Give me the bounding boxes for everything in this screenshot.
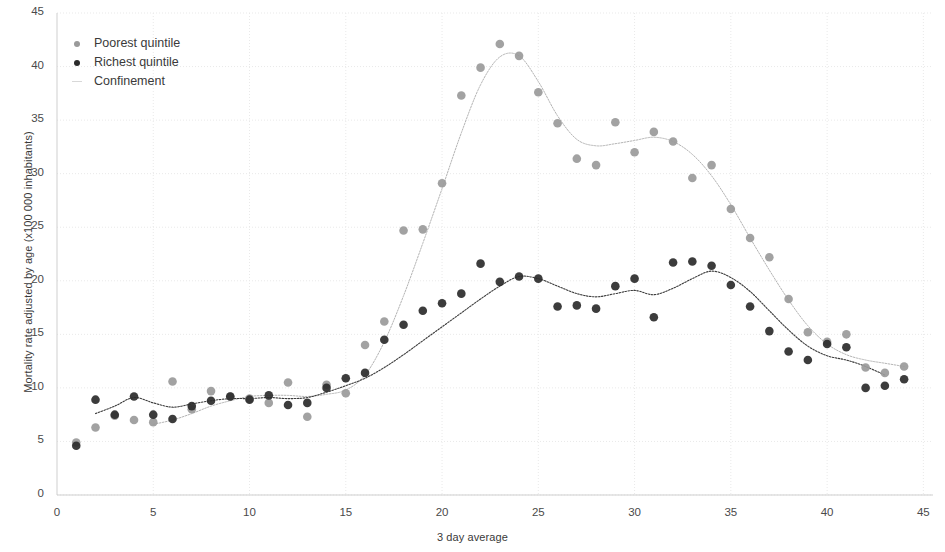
- x-tick-0: 0: [37, 506, 77, 518]
- x-tick-15: 15: [326, 506, 366, 518]
- x-tick-5: 5: [133, 506, 173, 518]
- x-axis-title: 3 day average: [0, 531, 945, 543]
- x-tick-30: 30: [615, 506, 655, 518]
- x-tick-20: 20: [422, 506, 462, 518]
- chart-legend: Poorest quintileRichest quintileConfinem…: [72, 34, 180, 91]
- x-tick-45: 45: [903, 506, 943, 518]
- x-tick-40: 40: [807, 506, 847, 518]
- x-tick-35: 35: [711, 506, 751, 518]
- legend-item-label: Poorest quintile: [94, 34, 180, 53]
- gridlines: [57, 13, 933, 495]
- axis-lines: [57, 13, 933, 495]
- legend-item-confinement: Confinement: [72, 72, 180, 91]
- legend-dot-icon: [72, 41, 88, 47]
- legend-item-richest-quintile: Richest quintile: [72, 53, 180, 72]
- legend-item-label: Confinement: [94, 72, 165, 91]
- series-poorest-quintile: [72, 40, 908, 447]
- legend-item-label: Richest quintile: [94, 53, 179, 72]
- y-tick-45: 45: [14, 5, 44, 17]
- legend-line-icon: [72, 81, 88, 82]
- y-tick-0: 0: [14, 487, 44, 499]
- legend-item-poorest-quintile: Poorest quintile: [72, 34, 180, 53]
- x-tick-25: 25: [518, 506, 558, 518]
- series-richest-quintile: [72, 257, 908, 450]
- y-axis-title: Mortality rate adjusted by age (x100 000…: [22, 62, 34, 462]
- mortality-rate-chart: 051015202530354045 051015202530354045 Mo…: [0, 0, 945, 552]
- trend-lines: [96, 53, 905, 424]
- x-tick-10: 10: [230, 506, 270, 518]
- data-points: [72, 40, 908, 450]
- legend-dot-icon: [72, 60, 88, 66]
